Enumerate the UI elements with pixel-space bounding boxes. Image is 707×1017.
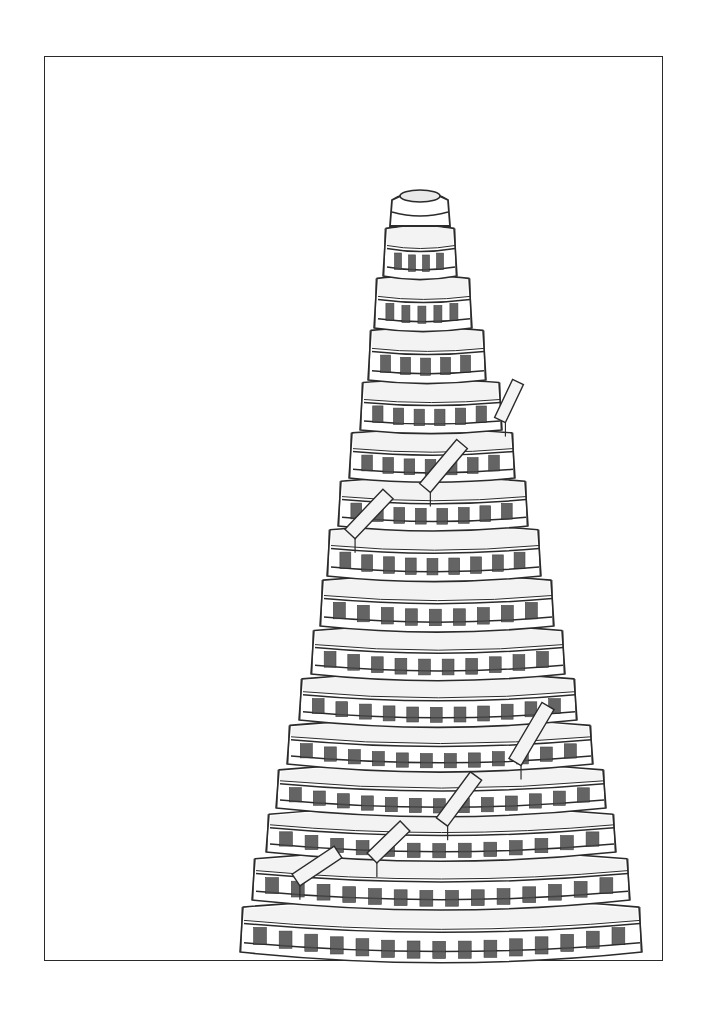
window <box>492 555 503 572</box>
window <box>313 791 325 805</box>
window <box>360 704 372 719</box>
window <box>381 355 391 372</box>
window <box>468 753 480 767</box>
tower-tier <box>311 625 565 681</box>
window <box>384 557 395 574</box>
window <box>450 303 458 320</box>
window <box>505 796 517 810</box>
window <box>480 506 491 522</box>
window <box>336 702 348 717</box>
window <box>405 609 417 626</box>
window <box>279 931 292 948</box>
window <box>481 798 493 812</box>
window <box>333 602 345 619</box>
window <box>407 707 419 722</box>
window <box>362 555 373 572</box>
window <box>612 928 625 945</box>
window <box>324 651 336 667</box>
window <box>401 357 411 374</box>
window <box>501 704 513 719</box>
window <box>442 659 454 675</box>
window <box>523 887 536 903</box>
tower-tier <box>360 379 502 433</box>
window <box>574 881 587 897</box>
window <box>513 655 525 671</box>
window <box>385 797 397 811</box>
window <box>561 934 574 951</box>
window <box>421 358 431 375</box>
window <box>497 889 510 905</box>
window <box>529 794 541 808</box>
window <box>312 699 324 714</box>
window <box>340 552 351 569</box>
window <box>564 744 576 758</box>
window <box>266 878 279 894</box>
window <box>420 890 433 906</box>
window <box>404 459 415 475</box>
window <box>540 747 552 761</box>
window <box>305 934 318 951</box>
window <box>394 890 407 906</box>
window <box>427 558 438 575</box>
window <box>419 659 431 675</box>
window <box>437 508 448 524</box>
window <box>449 558 460 575</box>
window <box>433 844 446 858</box>
window <box>383 706 395 721</box>
window <box>489 657 501 673</box>
window <box>405 558 416 575</box>
window <box>289 788 301 802</box>
window <box>317 884 330 900</box>
window <box>561 836 574 850</box>
tower-sketch-illustration <box>0 0 707 1017</box>
window <box>300 744 312 758</box>
window <box>489 455 500 471</box>
window <box>553 791 565 805</box>
window <box>305 835 318 849</box>
window <box>484 842 497 856</box>
window <box>362 455 373 471</box>
window <box>454 707 466 722</box>
window <box>586 931 599 948</box>
window <box>369 889 382 905</box>
window <box>453 609 465 626</box>
window <box>492 752 504 766</box>
window <box>407 843 420 857</box>
window <box>537 652 549 668</box>
window <box>356 939 369 956</box>
window <box>361 796 373 810</box>
window <box>535 937 548 954</box>
window <box>343 887 356 903</box>
window <box>337 794 349 808</box>
window <box>394 508 405 524</box>
window <box>549 884 562 900</box>
window <box>478 706 490 721</box>
window <box>577 788 589 802</box>
window <box>510 939 523 956</box>
window <box>446 890 459 906</box>
window <box>471 557 482 574</box>
cap-opening <box>400 190 440 202</box>
window <box>396 753 408 767</box>
window <box>433 941 446 958</box>
window <box>357 605 369 622</box>
window <box>430 707 442 722</box>
window <box>418 306 426 323</box>
tower-tier <box>320 575 554 632</box>
window <box>509 841 522 855</box>
window <box>381 608 393 625</box>
window <box>468 458 479 474</box>
window <box>409 255 416 272</box>
window <box>525 602 537 619</box>
window <box>429 609 441 626</box>
tower-tier <box>374 275 472 331</box>
window <box>600 878 613 894</box>
window <box>409 798 421 812</box>
window <box>434 305 442 322</box>
window <box>393 408 403 425</box>
window <box>324 747 336 761</box>
window <box>348 750 360 764</box>
window <box>458 508 469 524</box>
window <box>395 658 407 674</box>
window <box>435 409 445 426</box>
